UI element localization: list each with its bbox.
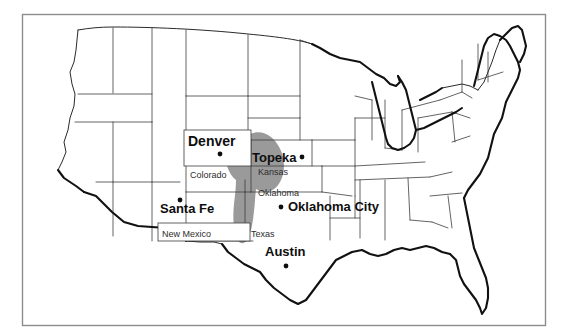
city-label-topeka: Topeka	[252, 150, 297, 165]
state-label-texas: Texas	[251, 229, 275, 239]
state-label-kansas: Kansas	[258, 167, 289, 177]
city-dot-denver	[218, 152, 223, 157]
state-label-oklahoma: Oklahoma	[258, 188, 299, 198]
city-label-austin: Austin	[265, 244, 306, 259]
city-label-oklahoma-city: Oklahoma City	[288, 199, 380, 214]
city-dot-oklahoma-city	[279, 205, 284, 210]
city-label-denver: Denver	[188, 133, 236, 149]
city-dot-santa-fe	[178, 198, 183, 203]
map-figure: Denver Colorado Topeka Kansas Santa Fe N…	[0, 0, 569, 335]
state-label-new-mexico: New Mexico	[162, 229, 211, 239]
city-dot-topeka	[300, 155, 305, 160]
state-label-colorado: Colorado	[190, 170, 227, 180]
city-dot-austin	[284, 264, 289, 269]
city-label-santa-fe: Santa Fe	[160, 201, 214, 216]
